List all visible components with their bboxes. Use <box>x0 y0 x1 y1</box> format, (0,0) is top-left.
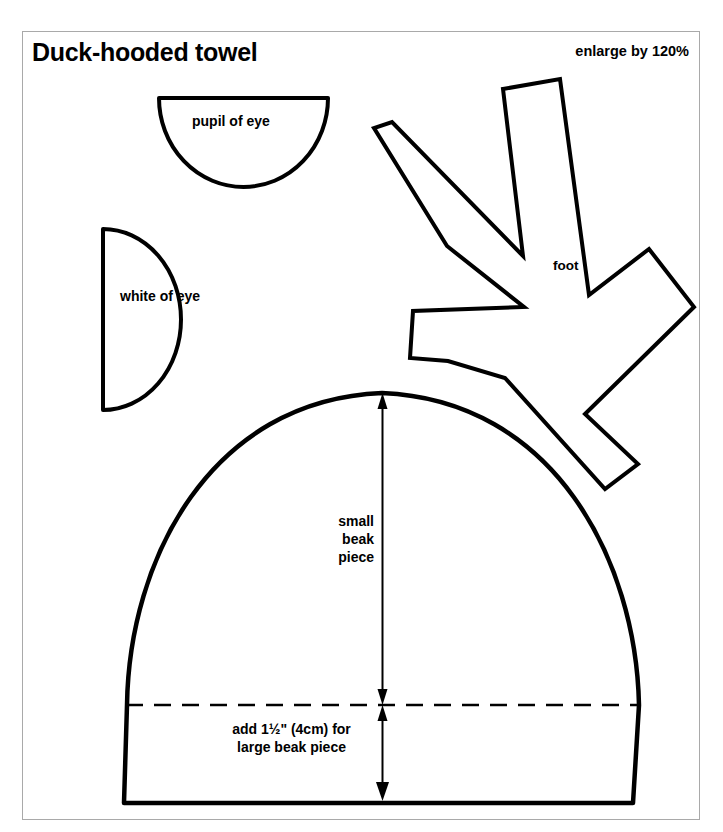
pupil-of-eye-label: pupil of eye <box>192 113 270 131</box>
pattern-sheet-frame <box>22 31 700 820</box>
large-beak-piece-label: add 1½" (4cm) forlarge beak piece <box>204 721 379 757</box>
white-of-eye-label: white of eye <box>120 288 200 306</box>
small-beak-piece-label: smallbeakpiece <box>329 513 374 567</box>
foot-label: foot <box>553 257 578 274</box>
page-title: Duck-hooded towel <box>32 38 257 67</box>
pattern-page: Duck-hooded towel enlarge by 120% pupil … <box>0 0 723 832</box>
enlarge-note: enlarge by 120% <box>575 43 689 59</box>
